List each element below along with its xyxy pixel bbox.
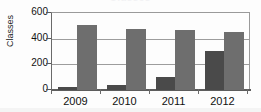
bar-2010-series-2 <box>126 29 146 90</box>
y-axis-tick-labels: 600 400 200 0 <box>16 0 48 112</box>
bar-2011-series-2 <box>175 30 195 90</box>
figure-bottom-edge <box>0 108 261 112</box>
x-tick-mark-4 <box>247 89 248 94</box>
x-tick-mark-2 <box>149 89 150 94</box>
y-tick-label-400: 400 <box>16 33 48 43</box>
y-tick-label-200: 200 <box>16 58 48 68</box>
x-tick-mark-3 <box>198 89 199 94</box>
x-tick-label-2012: 2012 <box>198 95 247 108</box>
bar-chart-figure: Classes Classes 600 400 200 0 <box>0 0 261 112</box>
x-tick-mark-0 <box>51 89 52 94</box>
x-tick-label-2010: 2010 <box>100 95 149 108</box>
bar-2012-series-2 <box>224 32 244 91</box>
y-axis-title: Classes <box>5 4 15 58</box>
bars-layer <box>51 12 250 90</box>
bar-group-2011 <box>152 12 198 90</box>
bar-2012-series-1 <box>205 51 224 90</box>
bar-group-2009 <box>54 12 100 90</box>
bar-group-2010 <box>103 12 149 90</box>
x-tick-label-2011: 2011 <box>149 95 198 108</box>
bar-group-2012 <box>201 12 247 90</box>
x-tick-mark-1 <box>100 89 101 94</box>
bar-2009-series-2 <box>77 25 97 90</box>
y-tick-label-600: 600 <box>16 7 48 17</box>
y-tick-label-0: 0 <box>16 84 48 94</box>
x-tick-label-2009: 2009 <box>51 95 100 108</box>
